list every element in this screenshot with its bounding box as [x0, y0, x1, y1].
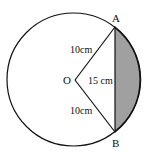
shaded-segment [115, 27, 141, 132]
label-A: A [112, 12, 120, 24]
label-AB: 15 cm [88, 75, 113, 86]
label-OA: 10cm [70, 44, 92, 55]
label-O: O [63, 74, 71, 86]
label-OB: 10cm [70, 105, 92, 116]
label-B: B [112, 137, 119, 149]
circle-segment-diagram: A B O 10cm 10cm 15 cm [0, 0, 151, 157]
